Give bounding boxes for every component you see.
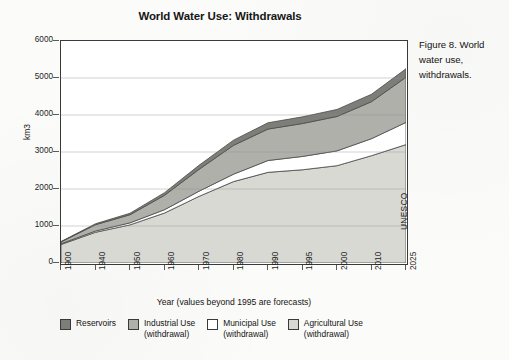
legend-swatch-icon (128, 319, 139, 330)
x-tick-label: 1990 (271, 252, 280, 270)
x-tick-mark (267, 265, 268, 270)
source-label: UNESCO (399, 192, 409, 230)
x-tick-label: 1995 (305, 252, 314, 270)
y-tick-label: 3000 (13, 147, 53, 155)
legend-label-sub: (withdrawal) (304, 329, 363, 340)
plot-area (60, 40, 408, 265)
y-tick-label: 6000 (13, 36, 53, 44)
y-tick-label: 0 (13, 258, 53, 266)
x-tick-mark (233, 265, 234, 270)
x-tick-label: 2000 (340, 252, 349, 270)
legend-label-sub: (withdrawal) (144, 329, 195, 340)
legend-label-main: Municipal Use (223, 318, 276, 328)
figure-caption: Figure 8. World water use, withdrawals. (419, 38, 505, 83)
y-tick-label: 4000 (13, 110, 53, 118)
legend-item[interactable]: Industrial Use(withdrawal) (128, 318, 195, 340)
x-tick-label: 1950 (133, 252, 142, 270)
x-axis-label: Year (values beyond 1995 are forecasts) (60, 297, 408, 307)
y-tick-label: 2000 (13, 184, 53, 192)
y-axis-label: km3 (22, 124, 32, 140)
chart-legend: ReservoirsIndustrial Use(withdrawal)Muni… (60, 318, 450, 340)
legend-label: Agricultural Use(withdrawal) (304, 318, 363, 340)
chart-title: World Water Use: Withdrawals (0, 10, 440, 22)
legend-label-main: Industrial Use (144, 318, 195, 328)
x-tick-mark (302, 265, 303, 270)
legend-item[interactable]: Municipal Use(withdrawal) (207, 318, 276, 340)
figure-page: World Water Use: Withdrawals km3 6000500… (0, 0, 509, 360)
legend-swatch-icon (60, 319, 71, 330)
x-tick-label: 1940 (98, 252, 107, 270)
legend-label: Industrial Use(withdrawal) (144, 318, 195, 340)
y-tick-mark (53, 77, 59, 78)
legend-item[interactable]: Agricultural Use(withdrawal) (288, 318, 363, 340)
x-tick-mark (405, 265, 406, 270)
x-tick-mark (60, 265, 61, 270)
x-tick-mark (198, 265, 199, 270)
x-tick-mark (164, 265, 165, 270)
y-tick-label: 5000 (13, 73, 53, 81)
y-tick-label: 1000 (13, 221, 53, 229)
legend-label: Municipal Use(withdrawal) (223, 318, 276, 340)
x-tick-label: 1900 (64, 252, 73, 270)
x-tick-mark (336, 265, 337, 270)
legend-label: Reservoirs (76, 318, 116, 329)
legend-label-sub: (withdrawal) (223, 329, 276, 340)
y-tick-mark (53, 114, 59, 115)
y-tick-mark (53, 262, 59, 263)
y-tick-mark (53, 40, 59, 41)
x-tick-label: 1980 (236, 252, 245, 270)
y-tick-mark (53, 225, 59, 226)
x-tick-mark (129, 265, 130, 270)
x-tick-mark (371, 265, 372, 270)
legend-swatch-icon (207, 319, 218, 330)
x-tick-label: 1960 (167, 252, 176, 270)
legend-label-main: Agricultural Use (304, 318, 363, 328)
legend-label-main: Reservoirs (76, 318, 116, 328)
legend-swatch-icon (288, 319, 299, 330)
y-tick-mark (53, 188, 59, 189)
x-tick-label: 1970 (202, 252, 211, 270)
x-tick-label: 2025 (409, 252, 418, 270)
legend-item[interactable]: Reservoirs (60, 318, 116, 330)
stacked-area-plot (61, 41, 406, 263)
x-tick-label: 2010 (374, 252, 383, 270)
x-tick-mark (95, 265, 96, 270)
y-tick-mark (53, 151, 59, 152)
